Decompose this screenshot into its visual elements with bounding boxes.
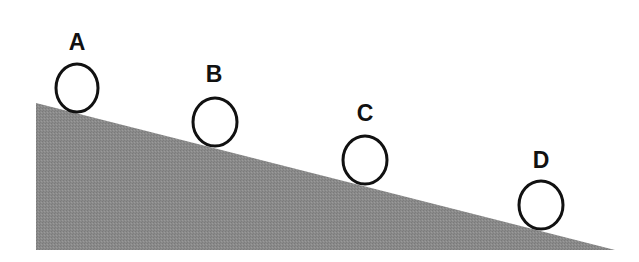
ball-a: A xyxy=(56,29,98,112)
ball-d-circle xyxy=(519,181,563,229)
ball-c-circle xyxy=(343,136,387,184)
ball-c-label: C xyxy=(357,100,374,126)
ball-c: C xyxy=(343,100,387,184)
ball-b: B xyxy=(193,61,237,146)
ball-a-label: A xyxy=(69,29,86,55)
ball-a-circle xyxy=(56,64,98,112)
ball-d: D xyxy=(519,147,563,229)
ball-b-label: B xyxy=(206,61,223,87)
ball-b-circle xyxy=(193,98,237,146)
ball-d-label: D xyxy=(533,147,550,173)
inclined-slope xyxy=(36,103,615,250)
inclined-plane-diagram: A B C D xyxy=(0,0,639,262)
